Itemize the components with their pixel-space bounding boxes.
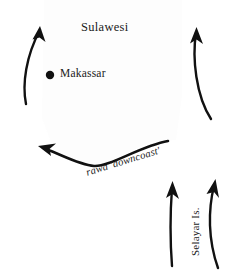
arrowhead <box>190 27 203 44</box>
arrowhead <box>38 144 56 157</box>
arrow-selayar-outer <box>207 179 220 268</box>
arrow-northeast-coast <box>190 27 211 119</box>
island-label-selayar: Selayar Is. <box>190 207 201 256</box>
arrow-selayar-inner <box>166 181 179 266</box>
arrow-northwest-coast <box>25 26 46 104</box>
city-label-makassar: Makassar <box>60 68 106 80</box>
makassar-dot <box>46 71 54 79</box>
region-label-sulawesi: Sulawesi <box>81 21 129 34</box>
map-figure: Sulawesi Makassar rawa 'downcoast' Selay… <box>0 0 236 279</box>
